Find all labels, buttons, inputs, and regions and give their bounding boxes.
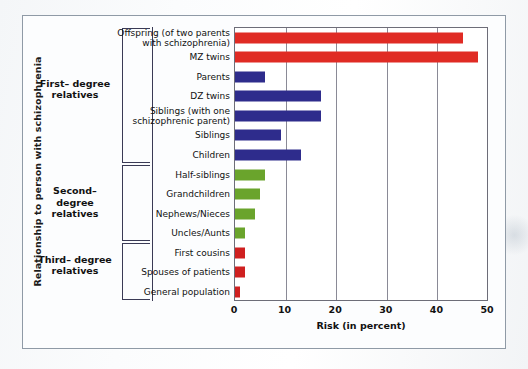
category-label: Grandchildren — [80, 189, 230, 199]
category-label: Uncles/Aunts — [80, 228, 230, 238]
category-label: Spouses of patients — [80, 267, 230, 277]
bar — [235, 130, 281, 141]
bar-row: General population — [152, 281, 488, 302]
bar — [235, 267, 245, 278]
bar — [235, 286, 240, 297]
bar-row: Offspring (of two parents with schizophr… — [152, 27, 488, 48]
x-tick-label: 10 — [270, 304, 300, 315]
bar — [235, 169, 265, 180]
bar — [235, 91, 321, 102]
bar-row: Spouses of patients — [152, 262, 488, 283]
bar-row: Half-siblings — [152, 164, 488, 185]
x-axis-title: Risk (in percent) — [234, 320, 488, 331]
bar — [235, 189, 260, 200]
bar — [235, 208, 255, 219]
bar-row: DZ twins — [152, 86, 488, 107]
bar-row: Children — [152, 144, 488, 165]
bar — [235, 52, 478, 63]
category-label: Half-siblings — [80, 169, 230, 179]
category-label: General population — [80, 287, 230, 297]
bar-row: Grandchildren — [152, 184, 488, 205]
bar — [235, 32, 463, 43]
bar-row: Siblings — [152, 125, 488, 146]
category-label: Parents — [80, 72, 230, 82]
bar-row: Parents — [152, 66, 488, 87]
category-label: DZ twins — [80, 91, 230, 101]
category-label: Siblings — [80, 130, 230, 140]
x-axis: 01020304050 Risk (in percent) — [234, 301, 488, 345]
category-label: Children — [80, 150, 230, 160]
chart-plot-area: Offspring (of two parents with schizophr… — [152, 27, 488, 301]
x-tick-label: 0 — [219, 304, 249, 315]
category-label: Siblings (with one schizophrenic parent) — [80, 106, 230, 126]
category-label: Offspring (of two parents with schizophr… — [80, 27, 230, 47]
category-label: MZ twins — [80, 52, 230, 62]
x-tick-label: 50 — [472, 304, 502, 315]
bar — [235, 228, 245, 239]
x-tick-label: 40 — [421, 304, 451, 315]
bar-row: Uncles/Aunts — [152, 223, 488, 244]
figure-root: Relationship to person with schizophreni… — [0, 0, 528, 369]
bar — [235, 247, 245, 258]
bar — [235, 149, 301, 160]
category-label: Nephews/Nieces — [80, 209, 230, 219]
category-label: First cousins — [80, 248, 230, 258]
bar-row: Nephews/Nieces — [152, 203, 488, 224]
bar — [235, 110, 321, 121]
bar-row: MZ twins — [152, 47, 488, 68]
bar-row: Siblings (with one schizophrenic parent) — [152, 105, 488, 126]
x-tick-label: 20 — [320, 304, 350, 315]
bar — [235, 71, 265, 82]
x-tick-label: 30 — [371, 304, 401, 315]
bar-row: First cousins — [152, 242, 488, 263]
